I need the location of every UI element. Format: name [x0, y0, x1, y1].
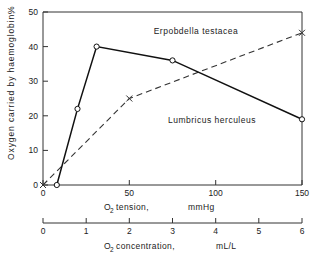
x2-ticklabel-0: 0	[41, 226, 46, 236]
x-axis-secondary: 0 1 2 3 4 5 6 O 2 concentration, mL/L	[41, 218, 305, 253]
x-ticklabel-100: 100	[209, 188, 223, 198]
erpobdella-label: Erpobdella testacea	[154, 26, 239, 36]
x2-ticklabel-4: 4	[213, 226, 218, 236]
x-axis-primary-title-group: O 2 tension, mmHg	[104, 202, 215, 214]
plot-border	[43, 12, 302, 185]
y-axis-unit: %	[6, 6, 16, 14]
lumbricus-marker-2	[94, 44, 99, 49]
x-axis-secondary-title-rest: concentration,	[116, 241, 175, 251]
y-axis-ticks	[43, 12, 48, 185]
oxygen-dissociation-chart: 0 10 20 30 40 50 Oxygen carried by haemo…	[0, 0, 319, 257]
x-axis-primary-ticks	[43, 180, 302, 185]
y-axis-title-group: Oxygen carried by haemoglobin, %	[6, 6, 16, 160]
lumbricus-label: Lumbricus herculeus	[168, 115, 256, 125]
lumbricus-marker-1	[75, 106, 80, 111]
x2-ticklabel-5: 5	[256, 226, 261, 236]
y-ticklabel-30: 30	[29, 76, 39, 86]
x-axis-primary-tick-labels: 0 50 100 150	[41, 188, 310, 198]
x2-ticklabel-2: 2	[127, 226, 132, 236]
lumbricus-marker-3	[170, 58, 175, 63]
chart-svg: 0 10 20 30 40 50 Oxygen carried by haemo…	[0, 0, 319, 257]
x-axis-secondary-unit: mL/L	[216, 241, 237, 251]
y-ticklabel-20: 20	[29, 111, 39, 121]
x2-ticklabel-3: 3	[170, 226, 175, 236]
y-ticklabel-0: 0	[33, 180, 38, 190]
x-ticklabel-150: 150	[295, 188, 309, 198]
y-ticklabel-50: 50	[29, 7, 39, 17]
x-ticklabel-50: 50	[125, 188, 135, 198]
x-axis-primary-title-rest: tension,	[116, 202, 149, 212]
erpobdella-marker-1	[126, 96, 132, 102]
x-axis-primary-title-sub: 2	[110, 207, 114, 214]
y-ticklabel-10: 10	[29, 145, 39, 155]
x-ticklabel-0: 0	[41, 188, 46, 198]
y-ticklabel-40: 40	[29, 42, 39, 52]
y-axis-tick-labels: 0 10 20 30 40 50	[29, 7, 39, 190]
lumbricus-marker-4	[299, 117, 304, 122]
lumbricus-marker-0	[54, 182, 59, 187]
plot-frame	[43, 12, 302, 185]
x2-ticklabel-1: 1	[84, 226, 89, 236]
x-axis-secondary-title-sub: 2	[110, 246, 114, 253]
y-axis-title: Oxygen carried by haemoglobin,	[6, 11, 16, 160]
erpobdella-line	[43, 33, 302, 185]
x-axis-primary-unit: mmHg	[188, 202, 215, 212]
x2-ticklabel-6: 6	[300, 226, 305, 236]
